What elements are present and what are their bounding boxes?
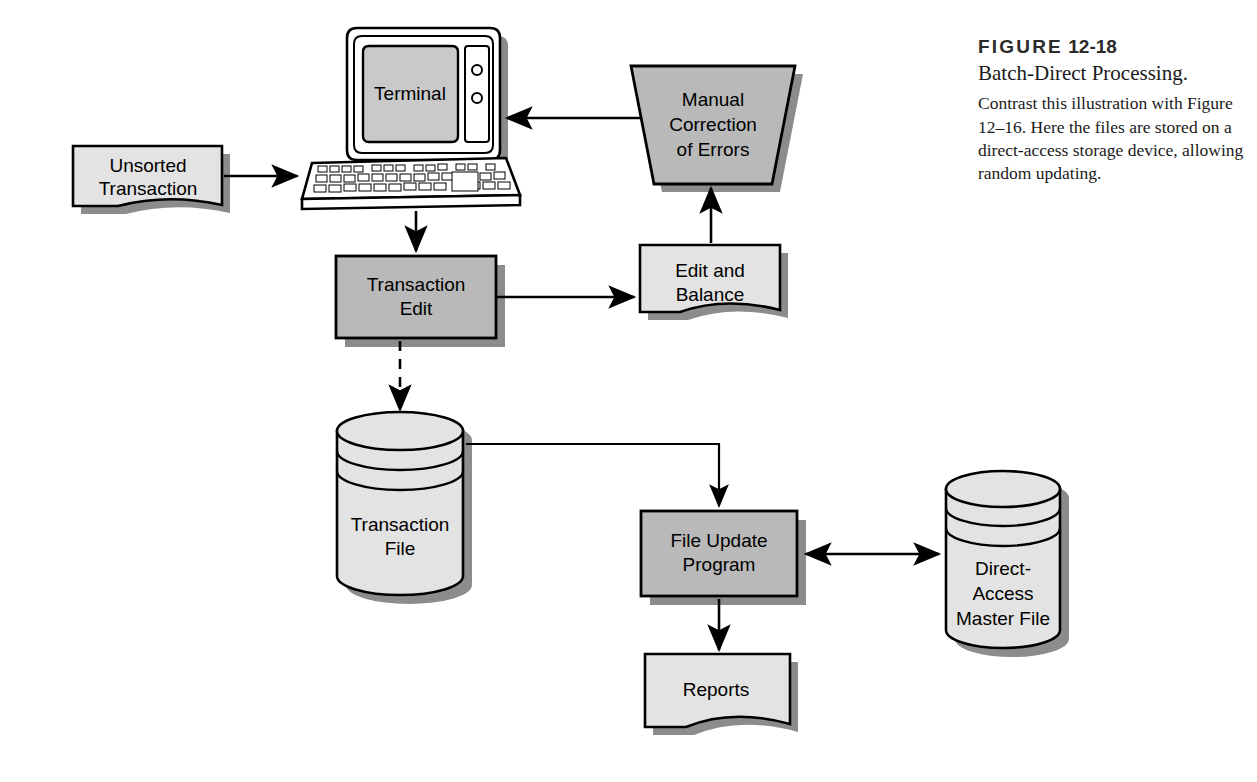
- node-unsorted-transaction[interactable]: Unsorted Transaction: [73, 146, 222, 206]
- node-file-update-program[interactable]: File Update Program: [641, 511, 797, 596]
- figure-number-heading: FIGURE 12-18: [978, 36, 1246, 58]
- figure-title: Batch-Direct Processing.: [978, 61, 1246, 85]
- figure-number: 12-18: [1068, 36, 1117, 57]
- edit-and-balance-label-line2: Balance: [676, 284, 745, 305]
- unsorted-transaction-label-line1: Unsorted: [109, 155, 186, 176]
- node-transaction-file[interactable]: Transaction File: [337, 412, 463, 595]
- transaction-file-cylinder-body: [337, 431, 463, 595]
- direct-access-master-label-line1: Direct-: [975, 558, 1031, 579]
- manual-correction-label-line2: Correction: [669, 114, 757, 135]
- terminal-knob-lower-icon[interactable]: [472, 93, 482, 103]
- transaction-edit-label-line1: Transaction: [367, 274, 466, 295]
- keyboard-enter-key: [452, 172, 478, 191]
- transaction-file-cylinder-top: [337, 412, 463, 450]
- node-manual-correction[interactable]: Manual Correction of Errors: [631, 66, 795, 184]
- node-edit-and-balance[interactable]: Edit and Balance: [640, 245, 780, 312]
- keyboard-front-edge: [302, 195, 520, 209]
- direct-access-master-cylinder-top: [946, 471, 1060, 507]
- transaction-file-label-line1: Transaction: [351, 514, 450, 535]
- edge-transaction-file-to-file-update-program: [466, 444, 719, 506]
- figure-caption-panel: FIGURE 12-18 Batch-Direct Processing. Co…: [978, 36, 1246, 185]
- figure-illustration: Unsorted Transaction Terminal: [0, 0, 1257, 782]
- file-update-program-label-line2: Program: [683, 554, 756, 575]
- node-terminal[interactable]: Terminal: [302, 28, 520, 209]
- reports-label: Reports: [683, 679, 750, 700]
- figure-description: Contrast this illustration with Figure 1…: [978, 92, 1246, 185]
- node-transaction-edit[interactable]: Transaction Edit: [336, 256, 496, 338]
- node-reports[interactable]: Reports: [645, 654, 790, 727]
- transaction-edit-label-line2: Edit: [400, 298, 433, 319]
- figure-label-prefix: FIGURE: [978, 36, 1063, 57]
- node-direct-access-master[interactable]: Direct- Access Master File: [946, 471, 1060, 648]
- terminal-knob-upper-icon[interactable]: [472, 65, 482, 75]
- unsorted-transaction-label-line2: Transaction: [99, 178, 198, 199]
- manual-correction-label-line1: Manual: [682, 89, 744, 110]
- terminal-label: Terminal: [374, 83, 446, 104]
- file-update-program-label-line1: File Update: [670, 530, 767, 551]
- transaction-edit-process-shape: [336, 256, 496, 338]
- direct-access-master-label-line3: Master File: [956, 608, 1050, 629]
- edit-and-balance-label-line1: Edit and: [675, 260, 745, 281]
- shape-shadows: [81, 36, 1069, 735]
- manual-correction-label-line3: of Errors: [677, 139, 750, 160]
- direct-access-master-label-line2: Access: [972, 583, 1033, 604]
- transaction-file-label-line2: File: [385, 538, 416, 559]
- terminal-keyboard[interactable]: [302, 158, 520, 209]
